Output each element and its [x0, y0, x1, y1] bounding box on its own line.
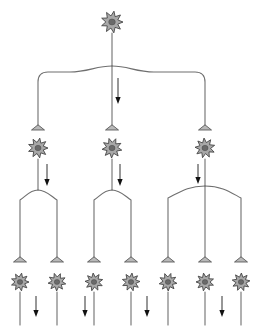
relay-neuron-left-nucleus	[35, 145, 41, 150]
relay-neuron-right-nucleus	[202, 145, 208, 150]
output-neuron-1-nucleus	[17, 280, 22, 285]
output-neuron-4-nucleus	[128, 280, 133, 285]
neural-divergence-diagram	[0, 0, 265, 327]
output-neuron-3-nucleus	[91, 280, 96, 285]
input-neuron-nucleus	[109, 19, 116, 25]
output-neuron-7-nucleus	[238, 280, 243, 285]
output-neuron-2-nucleus	[54, 280, 59, 285]
output-neuron-6-nucleus	[202, 280, 207, 285]
neural-circuit-canvas	[0, 0, 265, 327]
relay-neuron-middle-nucleus	[109, 145, 115, 150]
output-neuron-5-nucleus	[165, 280, 170, 285]
